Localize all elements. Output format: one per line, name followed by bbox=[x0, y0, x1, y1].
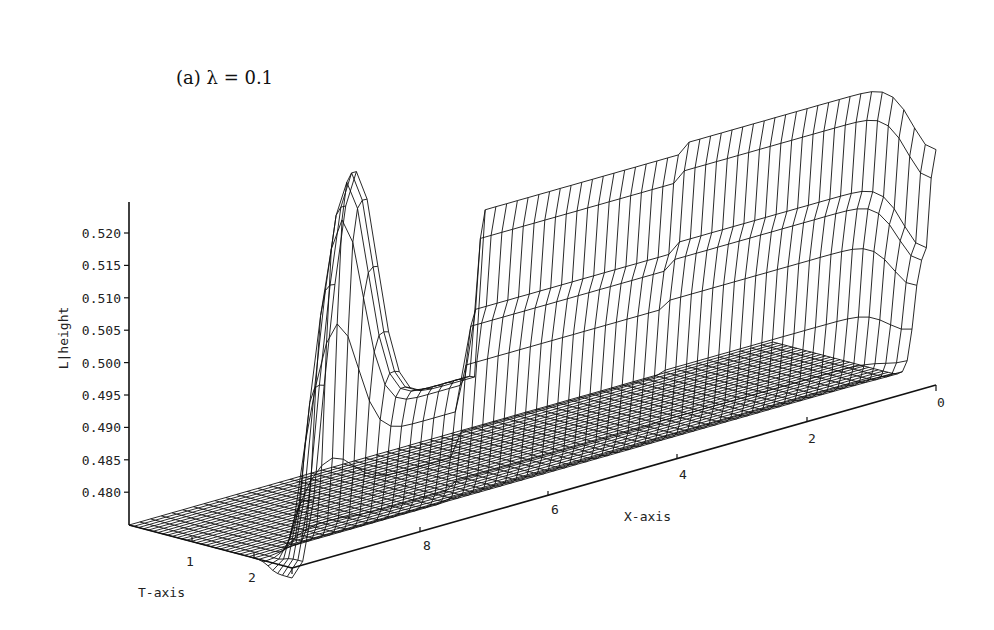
x-tick-6: 6 bbox=[551, 502, 559, 517]
t-tick-2: 2 bbox=[248, 570, 256, 585]
surface-plot: (a) λ = 0.1 0.5200.5150.5100.5050.5000.4… bbox=[0, 0, 994, 630]
x-tick-8: 8 bbox=[423, 538, 431, 553]
z-tick-label: 0.505 bbox=[82, 323, 121, 338]
z-tick-label: 0.510 bbox=[82, 291, 121, 306]
x-tick-0: 0 bbox=[937, 395, 945, 410]
z-tick-label: 0.480 bbox=[82, 485, 121, 500]
z-axis: 0.5200.5150.5100.5050.5000.4950.4900.485… bbox=[56, 202, 129, 525]
z-axis-label: L|height bbox=[56, 307, 71, 370]
z-tick-label: 0.515 bbox=[82, 258, 121, 273]
z-tick-label: 0.490 bbox=[82, 420, 121, 435]
chart-title: (a) λ = 0.1 bbox=[176, 67, 273, 88]
x-tick-2: 2 bbox=[808, 431, 816, 446]
x-axis-label: X-axis bbox=[624, 509, 671, 524]
z-tick-label: 0.500 bbox=[82, 356, 121, 371]
z-tick-label: 0.495 bbox=[82, 388, 121, 403]
t-tick-1: 1 bbox=[186, 554, 194, 569]
t-axis-label: T-axis bbox=[138, 585, 185, 600]
wireframe-surface bbox=[129, 92, 936, 578]
z-tick-label: 0.485 bbox=[82, 453, 121, 468]
x-tick-4: 4 bbox=[679, 467, 687, 482]
z-tick-label: 0.520 bbox=[82, 226, 121, 241]
